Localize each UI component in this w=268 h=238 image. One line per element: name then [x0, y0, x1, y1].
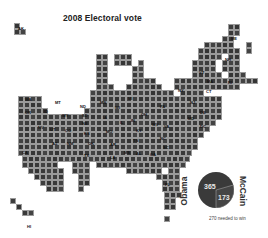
electoral-vote-cell	[58, 186, 64, 192]
electoral-vote-cell	[216, 114, 222, 120]
obama-label: Obama	[179, 177, 189, 206]
mccain-label: McCain	[238, 176, 248, 206]
electoral-vote-cell	[180, 162, 186, 168]
electoral-pie	[198, 172, 234, 208]
obama-count: 365	[204, 183, 216, 190]
electoral-vote-cell	[234, 84, 240, 90]
electoral-vote-cell	[246, 48, 252, 54]
electoral-vote-cell	[78, 186, 84, 192]
electoral-vote-cell	[210, 120, 216, 126]
state-label: HI	[27, 224, 31, 229]
electoral-vote-cell	[164, 216, 170, 222]
mccain-count: 173	[218, 194, 230, 201]
electoral-vote-cell	[20, 29, 26, 35]
electoral-vote-cell	[192, 144, 198, 150]
electoral-vote-cell	[198, 132, 204, 138]
win-threshold-note: 270 needed to win	[209, 216, 246, 221]
state-label: MT	[55, 100, 61, 105]
electoral-vote-cell	[204, 126, 210, 132]
electoral-vote-cell	[170, 204, 176, 210]
electoral-vote-cell	[252, 78, 258, 84]
electoral-vote-cell	[28, 210, 34, 216]
electoral-vote-cell	[234, 30, 240, 36]
electoral-vote-cell	[84, 180, 90, 186]
